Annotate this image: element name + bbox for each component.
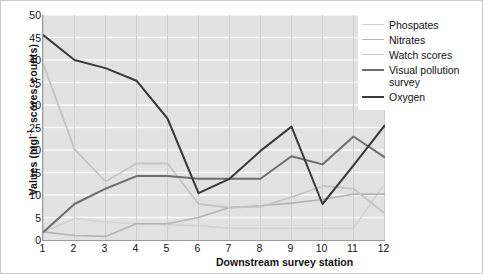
y-axis-tick-label: 10 [15,189,41,201]
chart-legend: PhospatesNitratesWatch scoresVisual poll… [358,15,482,110]
series-canvas [43,15,385,240]
legend-swatch-icon [362,49,384,60]
x-axis-tick-label: 6 [185,242,211,254]
y-axis-tick-label: 45 [15,32,41,44]
legend-item-label: Phospates [389,19,439,31]
legend-item-label: Watch scores [389,49,452,61]
y-axis-tick-label: 35 [15,77,41,89]
x-axis-tick-label: 4 [123,242,149,254]
x-axis-tick-label: 7 [216,242,242,254]
y-axis-tick-label: 5 [15,212,41,224]
x-axis-tick-label: 2 [61,242,87,254]
y-axis-tick-label: 25 [15,122,41,134]
legend-item[interactable]: Visual pollution survey [362,64,480,88]
legend-item-label: Oxygen [389,91,425,103]
x-axis-title: Downstream survey station [216,256,353,268]
y-axis-tick-label: 30 [15,99,41,111]
x-axis-tick-label: 5 [154,242,180,254]
x-axis-tick-label: 8 [247,242,273,254]
line-chart: Values (mgl-1, scores, counts) 051015202… [0,0,483,274]
legend-swatch-icon [362,64,384,75]
legend-item[interactable]: Nitrates [362,34,480,46]
y-axis-tick-label: 20 [15,144,41,156]
legend-swatch-icon [362,34,384,45]
x-axis-tick-label: 10 [309,242,335,254]
legend-item[interactable]: Oxygen [362,91,480,103]
y-axis-tick-label: 50 [15,9,41,21]
y-axis-ticks: 05101520253035404550 [15,1,41,274]
x-axis-tick-label: 9 [278,242,304,254]
legend-item[interactable]: Phospates [362,19,480,31]
x-axis-tick-label: 1 [30,242,56,254]
legend-item[interactable]: Watch scores [362,49,480,61]
x-axis-tick-label: 3 [92,242,118,254]
legend-swatch-icon [362,91,384,102]
legend-swatch-icon [362,19,384,30]
legend-item-label: Nitrates [389,34,425,46]
y-axis-tick-label: 15 [15,167,41,179]
legend-item-label: Visual pollution survey [389,64,459,88]
x-axis-tick-label: 11 [340,242,366,254]
y-axis-tick-label: 40 [15,54,41,66]
series-line-nitrates [44,194,385,236]
x-axis-tick-label: 12 [371,242,397,254]
plot-area [42,15,385,241]
